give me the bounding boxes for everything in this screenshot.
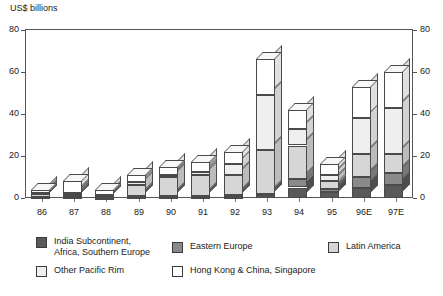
- bar-segment-88-4: [95, 190, 114, 195]
- legend-label-0: India Subcontinent, Africa, Southern Eur…: [54, 236, 150, 257]
- bar-segment-89-2: [127, 185, 146, 196]
- legend-item-1[interactable]: Eastern Europe: [172, 241, 253, 253]
- bar-segment-93-2: [256, 150, 275, 194]
- x-tick-label-86: 86: [25, 207, 59, 217]
- bar-segment-95-3: [320, 175, 339, 181]
- legend-item-0[interactable]: India Subcontinent, Africa, Southern Eur…: [36, 236, 150, 257]
- x-tick-label-97E: 97E: [379, 207, 413, 217]
- bar-segment-86-3: [31, 193, 50, 195]
- x-tick-mark-97E: [396, 198, 397, 202]
- legend-item-2[interactable]: Latin America: [328, 241, 401, 253]
- y-tick-label-left-40: 40: [9, 109, 19, 118]
- x-tick-label-92: 92: [218, 207, 252, 217]
- legend-label-1: Eastern Europe: [190, 241, 253, 252]
- legend-swatch-2: [328, 242, 339, 253]
- y-tick-label-right-80: 80: [420, 25, 430, 34]
- legend-swatch-1: [172, 242, 183, 253]
- x-tick-label-88: 88: [89, 207, 123, 217]
- bar-segment-93-1: [256, 194, 275, 196]
- y-tick-mark-left-40: [21, 114, 25, 115]
- bar-segment-93-3: [256, 95, 275, 150]
- bar-segment-90-2: [159, 177, 178, 196]
- x-tick-label-94: 94: [282, 207, 316, 217]
- bar-segment-86-1: [31, 197, 50, 199]
- legend-label-4: Hong Kong & China, Singapore: [190, 265, 316, 276]
- y-tick-mark-right-80: [413, 30, 417, 31]
- legend-swatch-3: [36, 266, 47, 277]
- stacked-bar-chart: US$ billions 002020404060608080 86878889…: [0, 0, 443, 296]
- bar-segment-92-1: [224, 195, 243, 197]
- bar-segment-87-4: [63, 181, 82, 193]
- bar-segment-97E-4: [384, 72, 403, 108]
- x-tick-label-91: 91: [186, 207, 220, 217]
- bar-segment-89-3: [127, 182, 146, 185]
- x-tick-label-95: 95: [315, 207, 349, 217]
- bar-segment-90-3: [159, 175, 178, 177]
- bar-segment-88-3: [95, 195, 114, 197]
- bar-segment-93-4: [256, 59, 275, 95]
- bar-segment-90-4: [159, 167, 178, 175]
- bar-segment-97E-0: [384, 185, 403, 198]
- bar-segment-90-1: [159, 196, 178, 198]
- x-tick-label-89: 89: [122, 207, 156, 217]
- x-tick-mark-94: [299, 198, 300, 202]
- bar-segment-89-1: [127, 196, 146, 198]
- bar-segment-95-2: [320, 181, 339, 188]
- x-tick-label-96E: 96E: [347, 207, 381, 217]
- y-tick-label-left-0: 0: [14, 193, 19, 202]
- bar-segment-94-3: [288, 129, 307, 146]
- bar-segment-91-3: [191, 172, 210, 175]
- bar-segment-89-4: [127, 175, 146, 182]
- bar-side-93-3: [275, 81, 282, 143]
- bar-segment-94-0: [288, 188, 307, 199]
- x-tick-mark-96E: [364, 198, 365, 202]
- chart-legend: India Subcontinent, Africa, Southern Eur…: [0, 234, 443, 296]
- legend-label-2: Latin America: [346, 241, 401, 252]
- legend-item-3[interactable]: Other Pacific Rim: [36, 265, 124, 277]
- bar-segment-91-1: [191, 196, 210, 198]
- y-tick-label-left-80: 80: [9, 25, 19, 34]
- y-tick-mark-left-60: [21, 72, 25, 73]
- legend-swatch-4: [172, 266, 183, 277]
- bar-segment-95-0: [320, 192, 339, 198]
- x-tick-label-87: 87: [57, 207, 91, 217]
- bar-segment-92-4: [224, 152, 243, 165]
- bar-segment-95-1: [320, 189, 339, 192]
- bar-segment-92-3: [224, 164, 243, 175]
- y-tick-label-left-20: 20: [9, 151, 19, 160]
- bar-segment-94-2: [288, 146, 307, 180]
- bar-segment-87-1: [63, 197, 82, 199]
- bar-segment-87-3: [63, 193, 82, 195]
- x-tick-mark-93: [267, 198, 268, 202]
- legend-item-4[interactable]: Hong Kong & China, Singapore: [172, 265, 316, 277]
- x-tick-mark-92: [235, 198, 236, 202]
- bar-segment-91-2: [191, 175, 210, 196]
- x-tick-label-90: 90: [154, 207, 188, 217]
- bar-segment-93-0: [256, 195, 275, 198]
- y-tick-label-right-20: 20: [420, 151, 430, 160]
- bar-segment-86-4: [31, 190, 50, 193]
- bar-segment-94-1: [288, 179, 307, 187]
- bar-segment-96E-2: [352, 154, 371, 177]
- y-tick-label-right-60: 60: [420, 67, 430, 76]
- y-tick-label-right-0: 0: [420, 193, 425, 202]
- y-tick-mark-right-60: [413, 72, 417, 73]
- bar-segment-96E-4: [352, 87, 371, 119]
- y-tick-mark-right-20: [413, 156, 417, 157]
- y-tick-label-right-40: 40: [420, 109, 430, 118]
- y-tick-mark-right-40: [413, 114, 417, 115]
- bar-side-93-2: [275, 136, 282, 187]
- bar-segment-87-2: [63, 195, 82, 197]
- y-axis-title: US$ billions: [10, 3, 58, 13]
- bar-segment-92-2: [224, 175, 243, 195]
- y-tick-mark-right-0: [413, 198, 417, 199]
- bar-segment-91-4: [191, 162, 210, 171]
- y-tick-label-left-60: 60: [9, 67, 19, 76]
- legend-swatch-0: [36, 237, 47, 248]
- bar-segment-97E-2: [384, 154, 403, 173]
- bar-segment-97E-3: [384, 108, 403, 154]
- bar-segment-96E-0: [352, 188, 371, 199]
- bar-side-96E-3: [371, 104, 378, 147]
- legend-label-3: Other Pacific Rim: [54, 265, 124, 276]
- bar-segment-96E-3: [352, 118, 371, 154]
